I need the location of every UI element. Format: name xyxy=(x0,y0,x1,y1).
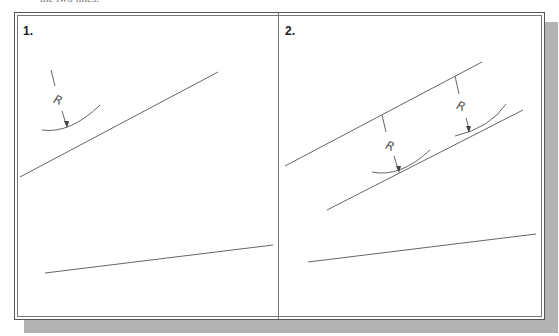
panel-1-radius-arc xyxy=(42,105,100,130)
panel-1-radius-leader-top xyxy=(51,70,55,86)
panel-1-lower-line xyxy=(45,245,273,273)
panel-2-radius-label-1: R xyxy=(384,138,397,154)
panel-1-upper-line xyxy=(20,72,218,177)
panel-2-lower-line xyxy=(308,234,536,262)
panel-2-middle-line xyxy=(327,110,523,210)
panel-2-radius-label-2: R xyxy=(455,98,468,114)
panel-2-perpendicular-1-top xyxy=(382,115,386,132)
panel-2-perpendicular-2-top xyxy=(455,76,459,94)
panel-1-radius-label: R xyxy=(52,92,65,108)
construction-drawing: R R R xyxy=(0,0,559,336)
